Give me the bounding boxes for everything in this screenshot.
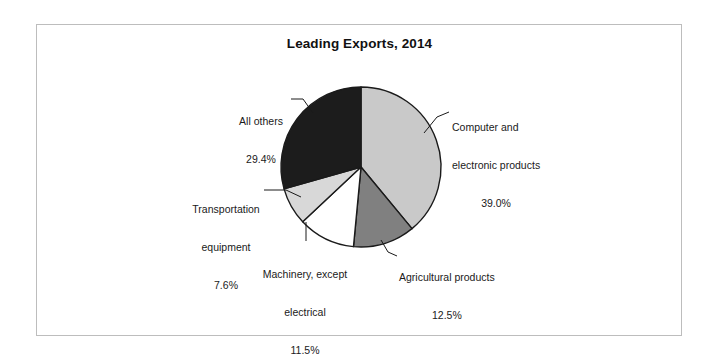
slice-label-transportation-line1: Transportation bbox=[172, 203, 280, 216]
slice-label-computer-value: 39.0% bbox=[452, 197, 540, 210]
chart-figure: Leading Exports, 2014 Computer and elect… bbox=[0, 0, 719, 359]
slice-label-agricultural-line1: Agricultural products bbox=[399, 271, 495, 284]
slice-label-computer-line1: Computer and bbox=[452, 121, 540, 134]
slice-label-machinery-value: 11.5% bbox=[248, 344, 362, 357]
slice-label-agricultural: Agricultural products 12.5% bbox=[399, 246, 495, 347]
pie-slices bbox=[281, 87, 441, 247]
slice-label-all-others: All others 29.4% bbox=[226, 90, 296, 191]
slice-label-transportation-value: 7.6% bbox=[172, 279, 280, 292]
slice-label-transportation-line2: equipment bbox=[172, 241, 280, 254]
slice-label-computer: Computer and electronic products 39.0% bbox=[452, 96, 540, 235]
slice-label-computer-line2: electronic products bbox=[452, 159, 540, 172]
slice-label-all-others-line1: All others bbox=[226, 115, 296, 128]
slice-label-agricultural-value: 12.5% bbox=[399, 309, 495, 322]
slice-label-all-others-value: 29.4% bbox=[226, 153, 296, 166]
slice-label-transportation: Transportation equipment 7.6% bbox=[172, 178, 280, 317]
